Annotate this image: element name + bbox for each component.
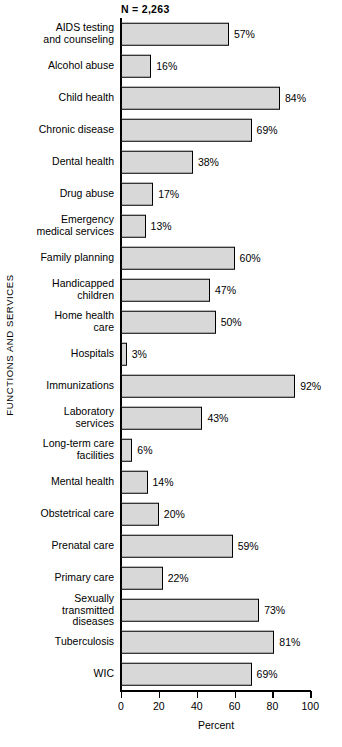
bar-value-label: 20%: [164, 508, 185, 520]
sample-size-annotation: N = 2,263: [121, 3, 170, 15]
x-axis-tick-label: 0: [118, 700, 124, 712]
category-label: WIC: [0, 668, 114, 680]
bar: [121, 599, 259, 622]
bar-value-label: 38%: [198, 156, 219, 168]
chart-row: Home health care50%: [0, 306, 342, 338]
bar: [121, 87, 280, 110]
chart-row: Sexually transmitted diseases73%: [0, 594, 342, 626]
bar: [121, 311, 216, 334]
chart-row: AIDS testing and counseling57%: [0, 18, 342, 50]
bar: [121, 439, 132, 462]
chart-row: Tuberculosis81%: [0, 626, 342, 658]
x-axis-title: Percent: [121, 719, 311, 731]
bar-value-label: 81%: [279, 636, 300, 648]
x-axis-tick: [272, 691, 273, 698]
category-label: Primary care: [0, 572, 114, 584]
bar-value-label: 14%: [153, 476, 174, 488]
x-axis-tick-label: 40: [191, 700, 203, 712]
category-label: Dental health: [0, 156, 114, 168]
bar-value-label: 59%: [238, 540, 259, 552]
bar: [121, 343, 127, 366]
bar-value-label: 13%: [151, 220, 172, 232]
x-axis-tick-label: 20: [153, 700, 165, 712]
bar-value-label: 17%: [158, 188, 179, 200]
chart-row: Long-term care facilities6%: [0, 434, 342, 466]
bar: [121, 119, 252, 142]
bar-value-label: 47%: [215, 284, 236, 296]
bar: [121, 471, 148, 494]
bar: [121, 375, 295, 398]
bar: [121, 23, 229, 46]
category-label: Child health: [0, 92, 114, 104]
x-axis-tick-label: 60: [229, 700, 241, 712]
bar-value-label: 60%: [240, 252, 261, 264]
bar: [121, 151, 193, 174]
bar: [121, 567, 163, 590]
bar: [121, 279, 210, 302]
bar-value-label: 16%: [156, 60, 177, 72]
category-label: Alcohol abuse: [0, 60, 114, 72]
category-label: Prenatal care: [0, 540, 114, 552]
bar: [121, 631, 274, 654]
bar: [121, 183, 153, 206]
chart-row: Child health84%: [0, 82, 342, 114]
chart-row: Immunizations92%: [0, 370, 342, 402]
bar-value-label: 92%: [300, 380, 321, 392]
bar: [121, 215, 146, 238]
chart-row: Hospitals3%: [0, 338, 342, 370]
category-label: Laboratory services: [0, 406, 114, 429]
chart-row: Primary care22%: [0, 562, 342, 594]
bar-value-label: 6%: [137, 444, 152, 456]
bar: [121, 407, 202, 430]
category-label: Long-term care facilities: [0, 438, 114, 461]
chart-row: Alcohol abuse16%: [0, 50, 342, 82]
chart-row: Mental health14%: [0, 466, 342, 498]
chart-row: Drug abuse17%: [0, 178, 342, 210]
chart-row: Laboratory services43%: [0, 402, 342, 434]
category-label: Tuberculosis: [0, 636, 114, 648]
bar: [121, 247, 235, 270]
x-axis-tick: [159, 691, 160, 698]
x-axis-tick-label: 100: [302, 700, 320, 712]
chart-row: Family planning60%: [0, 242, 342, 274]
bar-value-label: 57%: [234, 28, 255, 40]
category-label: Drug abuse: [0, 188, 114, 200]
chart-row: Handicapped children47%: [0, 274, 342, 306]
bar-value-label: 73%: [264, 604, 285, 616]
category-label: Mental health: [0, 476, 114, 488]
chart-row: Dental health38%: [0, 146, 342, 178]
bar-value-label: 50%: [221, 316, 242, 328]
x-axis-tick: [121, 691, 122, 698]
bar-value-label: 84%: [285, 92, 306, 104]
chart-row: Obstetrical care20%: [0, 498, 342, 530]
category-label: Emergency medical services: [0, 214, 114, 237]
bar-value-label: 43%: [207, 412, 228, 424]
category-label: Chronic disease: [0, 124, 114, 136]
bar-value-label: 69%: [257, 124, 278, 136]
chart-row: Prenatal care59%: [0, 530, 342, 562]
x-axis-tick-label: 80: [267, 700, 279, 712]
bar-value-label: 3%: [132, 348, 147, 360]
category-label: Hospitals: [0, 348, 114, 360]
chart-row: Emergency medical services13%: [0, 210, 342, 242]
bar: [121, 535, 233, 558]
bar: [121, 663, 252, 686]
plot-area: AIDS testing and counseling57%Alcohol ab…: [0, 18, 342, 690]
category-label: Sexually transmitted diseases: [0, 593, 114, 628]
category-label: Immunizations: [0, 380, 114, 392]
category-label: AIDS testing and counseling: [0, 22, 114, 45]
category-label: Obstetrical care: [0, 508, 114, 520]
x-axis-tick: [235, 691, 236, 698]
category-label: Handicapped children: [0, 278, 114, 301]
category-label: Family planning: [0, 252, 114, 264]
chart-row: Chronic disease69%: [0, 114, 342, 146]
bar: [121, 55, 151, 78]
bar: [121, 503, 159, 526]
x-axis-tick: [197, 691, 198, 698]
chart-row: WIC69%: [0, 658, 342, 690]
bar-value-label: 22%: [168, 572, 189, 584]
bar-value-label: 69%: [257, 668, 278, 680]
x-axis-line: [120, 690, 311, 692]
x-axis-tick: [310, 691, 311, 698]
category-label: Home health care: [0, 310, 114, 333]
